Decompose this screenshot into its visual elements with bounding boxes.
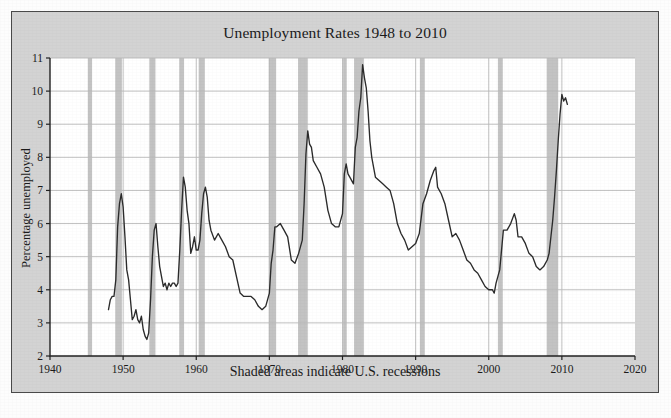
y-tick-label: 4 <box>37 284 43 296</box>
y-tick-label: 9 <box>37 118 43 130</box>
chart-caption: Shaded areas indicate U.S. recessions <box>12 364 658 380</box>
recession-band <box>343 58 347 356</box>
recession-band <box>88 58 92 356</box>
y-tick-label: 3 <box>37 317 43 329</box>
y-tick-label: 8 <box>37 151 43 163</box>
recession-band <box>298 58 308 356</box>
recession-band <box>269 58 276 356</box>
y-tick-label: 2 <box>37 350 43 362</box>
y-tick-label: 5 <box>37 251 43 263</box>
recession-band <box>354 58 364 356</box>
y-axis-ticks: 234567891011 <box>32 52 51 362</box>
recession-band <box>498 58 503 356</box>
recession-band <box>547 58 559 356</box>
y-tick-label: 10 <box>32 85 44 97</box>
figure-panel: Unemployment Rates 1948 to 2010 Percenta… <box>11 11 659 393</box>
unemployment-line-chart: 2345678910111940195019601970198019902000… <box>12 12 657 391</box>
figure-root: Unemployment Rates 1948 to 2010 Percenta… <box>0 0 671 418</box>
y-tick-label: 11 <box>32 52 43 64</box>
y-tick-label: 7 <box>37 184 43 196</box>
y-tick-label: 6 <box>37 218 43 230</box>
